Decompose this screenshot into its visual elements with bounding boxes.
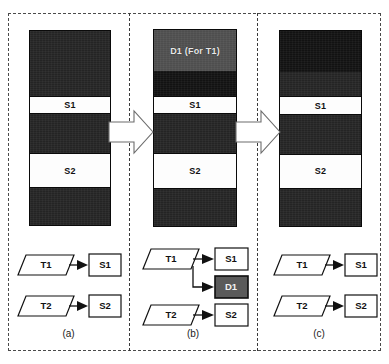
arrowhead-t2-s2-icon: [333, 301, 344, 311]
bar-c-band-free-bottom: [280, 189, 361, 226]
segment-label-s2: S2: [355, 300, 367, 311]
arrowhead-t1-s1-icon: [77, 260, 88, 270]
arrowhead-t1-d1-icon: [202, 282, 214, 292]
bar-b-band-free-bottom: [154, 189, 236, 226]
storage-bar-a: S1 S2: [29, 30, 111, 226]
arrowhead-t1-s1-icon: [202, 254, 214, 264]
panel-c-caption: (c): [257, 328, 381, 339]
task-label-t2: T2: [165, 309, 176, 320]
bar-b-label-d1-region: D1 (For T1): [170, 46, 220, 56]
task-label-t2: T2: [296, 300, 307, 311]
panel-b-caption: (b): [129, 328, 257, 339]
segment-label-s2: S2: [225, 309, 237, 320]
bar-a-band-free-mid: [30, 114, 110, 153]
flow-svg-c: T1 S1 T2 S2: [257, 235, 381, 327]
bar-b-label-s1: S1: [189, 100, 200, 110]
segment-label-s1: S1: [99, 259, 111, 270]
bar-a-band-s1: S1: [30, 96, 110, 114]
bar-b-band-s2: S2: [154, 153, 236, 188]
bar-b-band-free-mid: [154, 114, 236, 153]
bar-c-band-s1: S1: [280, 96, 361, 115]
panel-a: S1 S2 T1 S1 T2: [8, 13, 129, 351]
bar-a-label-s1: S1: [64, 100, 75, 110]
flow-diagram-a: T1 S1 T2 S2: [8, 235, 129, 327]
panel-a-caption: (a): [8, 328, 129, 339]
bar-c-band-free-mid: [280, 115, 361, 154]
flow-svg-b: T1 S1 D1 T2 S2: [129, 235, 257, 335]
segment-label-s2: S2: [99, 300, 111, 311]
arrow-a-to-b: [108, 108, 154, 156]
segment-label-d1: D1: [225, 281, 238, 292]
bar-a-label-s2: S2: [64, 166, 75, 176]
bar-c-label-s2: S2: [315, 166, 326, 176]
bar-b-band-free-top: [154, 71, 236, 96]
segment-label-s1: S1: [225, 253, 237, 264]
bar-c-label-s1: S1: [315, 101, 326, 111]
storage-bar-b: D1 (For T1) S1 S2: [153, 29, 237, 227]
arrowhead-t2-s2-icon: [77, 301, 88, 311]
bar-a-band-free-bottom: [30, 188, 110, 225]
bar-b-label-s2: S2: [189, 166, 200, 176]
bar-a-band-s2: S2: [30, 153, 110, 188]
task-label-t1: T1: [40, 259, 52, 270]
bar-c-band-free-very-top: [280, 31, 361, 72]
bar-c-band-s2: S2: [280, 154, 361, 189]
bar-b-band-s1: S1: [154, 96, 236, 115]
bar-b-band-d1-region: D1 (For T1): [154, 30, 236, 71]
task-label-t1: T1: [165, 253, 177, 264]
panel-b: D1 (For T1) S1 S2 T1: [129, 13, 257, 351]
flow-diagram-c: T1 S1 T2 S2: [257, 235, 381, 327]
block-arrow-right-icon: [108, 108, 154, 156]
arrowhead-t2-s2-icon: [202, 310, 214, 320]
bar-a-band-free-top: [30, 31, 110, 96]
panel-c: S1 S2 T1 S1 T2 S2: [257, 13, 381, 351]
arrow-b-to-c: [235, 108, 281, 156]
task-label-t1: T1: [296, 259, 308, 270]
task-label-t2: T2: [40, 300, 51, 311]
block-arrow-right-icon: [235, 108, 281, 156]
flow-diagram-b: T1 S1 D1 T2 S2: [129, 235, 257, 327]
figure-root: S1 S2 T1 S1 T2: [0, 0, 389, 364]
flow-svg-a: T1 S1 T2 S2: [8, 235, 129, 327]
storage-bar-c: S1 S2: [279, 30, 362, 227]
segment-label-s1: S1: [355, 259, 367, 270]
arrowhead-t1-s1-icon: [333, 260, 344, 270]
bar-c-band-free-top: [280, 72, 361, 96]
